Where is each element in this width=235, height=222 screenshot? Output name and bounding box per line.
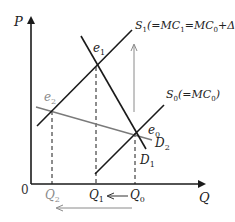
q0-label: Q0 [130,188,145,204]
supply-demand-diagram: P Q 0 e1 e2 e0 D2 D1 S1(=MC1=MC0+ΔW) S0(… [0,0,235,222]
e1-label: e1 [93,41,105,57]
e2-label: e2 [44,90,56,106]
s0-label: S0(=MC0) [166,88,220,103]
origin-label: 0 [21,183,29,197]
projection-lines [52,67,135,184]
y-axis-label: P [13,14,23,29]
q1-label: Q1 [89,188,104,204]
q2-label: Q2 [45,188,60,204]
s1-label: S1(=MC1=MC0+ΔW) [135,19,235,34]
s1-curve [37,30,132,126]
x-axis-label: Q [199,190,210,205]
d1-label: D1 [139,153,155,169]
d2-label: D2 [154,136,170,152]
